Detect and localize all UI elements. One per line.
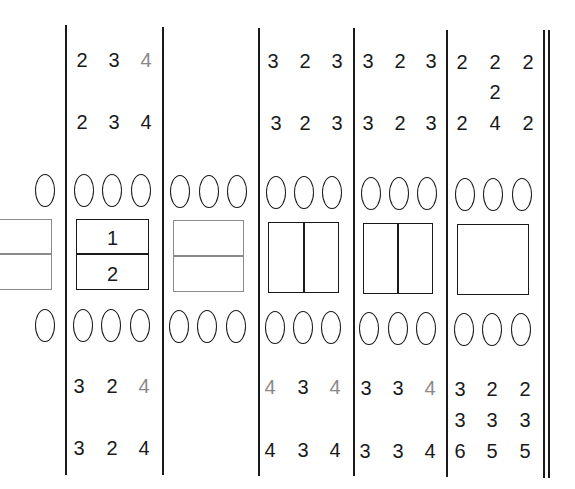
number: 2 (518, 113, 538, 133)
number: 2 (515, 379, 535, 399)
split-box-gray (173, 220, 244, 292)
box-label-2: 2 (77, 264, 148, 284)
number: 2 (295, 113, 315, 133)
number: 3 (104, 50, 124, 70)
end-line-1 (543, 30, 545, 478)
vertical-split-box-2 (363, 223, 433, 294)
box-divider (174, 255, 243, 257)
number: 5 (482, 441, 502, 461)
oval-icon (455, 178, 475, 211)
box-divider (397, 224, 399, 293)
number: 3 (421, 51, 441, 71)
oval-icon (389, 177, 409, 210)
number: 4 (134, 438, 154, 458)
divider-5 (446, 30, 448, 477)
divider-3 (258, 28, 260, 476)
number-gray: 4 (260, 377, 280, 397)
oval-icon (170, 175, 190, 208)
box-divider (77, 253, 148, 255)
box-divider (0, 253, 51, 255)
number: 3 (450, 410, 470, 430)
number: 2 (72, 50, 92, 70)
number: 2 (390, 51, 410, 71)
oval-icon (35, 309, 55, 342)
number: 3 (263, 51, 283, 71)
oval-icon (73, 309, 93, 342)
number: 4 (485, 113, 505, 133)
plain-box (457, 224, 529, 295)
number: 5 (515, 441, 535, 461)
oval-icon (226, 310, 246, 343)
number: 2 (390, 113, 410, 133)
number: 3 (450, 379, 470, 399)
number: 3 (293, 440, 313, 460)
oval-icon (321, 311, 341, 344)
oval-icon (483, 178, 503, 211)
oval-icon (101, 309, 121, 342)
number: 2 (485, 82, 505, 102)
oval-icon (482, 313, 502, 346)
oval-icon (417, 177, 437, 210)
oval-icon (322, 176, 342, 209)
number: 4 (136, 112, 156, 132)
number: 3 (358, 113, 378, 133)
number: 4 (420, 441, 440, 461)
oval-icon (199, 175, 219, 208)
oval-icon (416, 312, 436, 345)
number: 3 (355, 441, 375, 461)
number: 3 (358, 51, 378, 71)
number: 2 (485, 52, 505, 72)
number-gray: 4 (325, 377, 345, 397)
number-gray: 4 (420, 378, 440, 398)
number: 3 (104, 112, 124, 132)
number: 3 (388, 441, 408, 461)
oval-icon (359, 312, 379, 345)
number: 3 (293, 377, 313, 397)
oval-icon (227, 175, 247, 208)
divider-1 (65, 25, 67, 475)
oval-icon (361, 177, 381, 210)
number: 3 (69, 376, 89, 396)
divider-2 (162, 27, 164, 475)
oval-icon (265, 311, 285, 344)
number: 2 (295, 51, 315, 71)
number: 2 (72, 112, 92, 132)
number: 6 (450, 441, 470, 461)
number: 2 (102, 438, 122, 458)
number: 2 (102, 376, 122, 396)
number: 3 (327, 113, 347, 133)
oval-icon (511, 313, 531, 346)
number: 2 (482, 379, 502, 399)
oval-icon (35, 174, 55, 207)
oval-icon (388, 312, 408, 345)
oval-icon (294, 176, 314, 209)
number: 2 (452, 52, 472, 72)
number: 3 (482, 410, 502, 430)
partial-box-gray (0, 219, 52, 290)
number: 4 (260, 440, 280, 460)
number-gray: 4 (136, 50, 156, 70)
vertical-split-box-1 (268, 222, 339, 293)
number: 3 (421, 113, 441, 133)
number: 3 (515, 410, 535, 430)
oval-icon (102, 174, 122, 207)
number: 3 (266, 113, 286, 133)
number: 3 (356, 378, 376, 398)
number: 2 (518, 52, 538, 72)
number: 3 (69, 438, 89, 458)
split-box-1-2: 1 2 (76, 219, 149, 290)
box-label-1: 1 (77, 228, 148, 248)
box-divider (303, 223, 305, 292)
number: 3 (388, 378, 408, 398)
oval-icon (131, 174, 151, 207)
end-line-2 (548, 30, 550, 478)
oval-icon (74, 174, 94, 207)
oval-icon (293, 311, 313, 344)
number: 2 (452, 113, 472, 133)
oval-icon (454, 313, 474, 346)
oval-icon (266, 176, 286, 209)
oval-icon (512, 178, 532, 211)
number-gray: 4 (134, 376, 154, 396)
oval-icon (130, 309, 150, 342)
oval-icon (197, 310, 217, 343)
